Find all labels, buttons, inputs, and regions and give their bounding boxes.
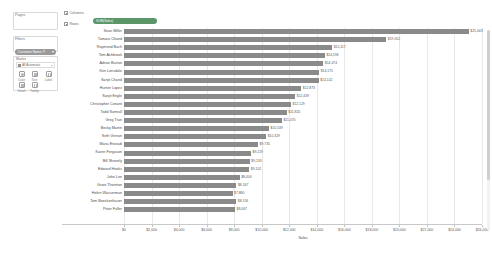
marks-button-tooltip-label: Tooltip bbox=[29, 89, 40, 93]
marks-button-size[interactable]: Size bbox=[29, 71, 40, 82]
bar-row[interactable]: Peter Fuller$8,067 bbox=[124, 206, 482, 214]
bar-row[interactable]: Ken Lonsdale$14,175 bbox=[124, 68, 482, 76]
bar-row[interactable]: Becky Martin$10,539 bbox=[124, 125, 482, 133]
x-axis-tick bbox=[482, 225, 483, 227]
bar[interactable] bbox=[124, 102, 291, 107]
detail-icon bbox=[19, 82, 25, 88]
marks-type-dropdown[interactable]: All Automatic bbox=[16, 62, 55, 68]
x-axis-tick-label: $20,000 bbox=[393, 228, 406, 233]
chevron-down-icon[interactable] bbox=[51, 65, 53, 66]
bar[interactable] bbox=[124, 191, 233, 196]
bar[interactable] bbox=[124, 134, 266, 139]
bar-row[interactable]: Tom Ashbrook$14,596 bbox=[124, 52, 482, 60]
tooltip-icon bbox=[32, 82, 38, 88]
bar[interactable] bbox=[124, 70, 319, 75]
bar[interactable] bbox=[124, 199, 236, 204]
bar-row-label: Christopher Conant bbox=[90, 101, 122, 108]
bar-row[interactable]: Raymond Buch$15,117 bbox=[124, 44, 482, 52]
x-axis-tick bbox=[399, 225, 400, 227]
x-axis-tick bbox=[372, 225, 373, 227]
bar[interactable] bbox=[124, 151, 251, 156]
bar-row[interactable]: John Lee$8,400 bbox=[124, 174, 482, 182]
bar-row-label: Sanjit Chand bbox=[101, 77, 122, 84]
bar-row[interactable]: Greg Tran$11,470 bbox=[124, 117, 482, 125]
marks-type-value: All Automatic bbox=[22, 63, 40, 68]
x-axis-line bbox=[62, 224, 482, 225]
bar-row[interactable]: Sean Miller$25,043 bbox=[124, 28, 482, 36]
bar-value-label: $19,052 bbox=[388, 36, 400, 43]
x-axis-tick-label: $6,000 bbox=[201, 228, 212, 233]
chevron-down-icon[interactable] bbox=[52, 51, 54, 53]
bar[interactable] bbox=[124, 175, 240, 180]
bar-row-label: Helen Wasserman bbox=[92, 190, 122, 197]
bar-row-label: Peter Fuller bbox=[103, 206, 122, 213]
bar-row[interactable]: Sanjit Chand$14,142 bbox=[124, 77, 482, 85]
bar-row[interactable]: Bill Shonely$9,133 bbox=[124, 158, 482, 166]
bar-row[interactable]: Seth Vernon$10,329 bbox=[124, 133, 482, 141]
bar[interactable] bbox=[124, 207, 235, 212]
bar[interactable] bbox=[124, 78, 319, 83]
bar-row[interactable]: Hunter Lopez$12,873 bbox=[124, 85, 482, 93]
bar[interactable] bbox=[124, 53, 325, 58]
bar-row[interactable]: Edward Hooks$9,102 bbox=[124, 166, 482, 174]
x-axis-tick bbox=[344, 225, 345, 227]
filter-pill-customer-name[interactable]: Customer Name: P bbox=[15, 49, 56, 55]
marks-button-detail[interactable]: Detail bbox=[16, 82, 27, 93]
bar[interactable] bbox=[124, 45, 332, 50]
bar-row-label: John Lee bbox=[107, 174, 122, 181]
bar[interactable] bbox=[124, 126, 269, 131]
bar[interactable] bbox=[124, 110, 287, 115]
x-axis-tick-label: $2,000 bbox=[146, 228, 157, 233]
tableau-worksheet-window: Pages Filters Customer Name: P Marks All… bbox=[0, 0, 492, 258]
x-axis-tick bbox=[262, 225, 263, 227]
bar-row-label: Adrian Barton bbox=[99, 60, 122, 67]
bar-value-label: $14,142 bbox=[320, 77, 332, 84]
bar[interactable] bbox=[124, 61, 323, 66]
bar[interactable] bbox=[124, 86, 301, 91]
marks-button-tooltip[interactable]: Tooltip bbox=[29, 82, 40, 93]
bar-row[interactable]: Karen Ferguson$9,229 bbox=[124, 149, 482, 157]
x-axis-tick-label: $16,000 bbox=[338, 228, 351, 233]
bar-row[interactable]: Maria Etezadi$9,735 bbox=[124, 141, 482, 149]
bar-value-label: $8,400 bbox=[241, 174, 251, 181]
bar[interactable] bbox=[124, 29, 469, 34]
bar[interactable] bbox=[124, 159, 250, 164]
bar[interactable] bbox=[124, 37, 386, 42]
columns-icon bbox=[64, 11, 68, 15]
bar-row-label: Tom Boeckenhauer bbox=[90, 198, 122, 205]
bar-value-label: $9,229 bbox=[253, 149, 263, 156]
vertical-scrollbar-thumb[interactable] bbox=[487, 30, 490, 180]
bar[interactable] bbox=[124, 94, 295, 99]
bar[interactable] bbox=[124, 118, 282, 123]
bar-row[interactable]: Adrian Barton$14,474 bbox=[124, 60, 482, 68]
bar[interactable] bbox=[124, 167, 249, 172]
mark-type-icon bbox=[18, 64, 21, 67]
bar-value-label: $9,133 bbox=[251, 158, 261, 165]
bar-row-label: Karen Ferguson bbox=[96, 149, 122, 156]
bar-row[interactable]: Tamara Chand$19,052 bbox=[124, 36, 482, 44]
x-axis-tick bbox=[179, 225, 180, 227]
vertical-scrollbar[interactable] bbox=[487, 30, 490, 230]
columns-shelf[interactable]: Columns SUM(Sales) bbox=[64, 9, 294, 17]
bar-value-label: $10,329 bbox=[268, 133, 280, 140]
marks-button-label[interactable]: Label bbox=[43, 71, 54, 82]
bar-row[interactable]: Christopher Conant$12,129 bbox=[124, 101, 482, 109]
x-axis-tick-label: $10,000 bbox=[255, 228, 268, 233]
bar-row[interactable]: Grant Thornton$8,167 bbox=[124, 182, 482, 190]
bar-row[interactable]: Helen Wasserman$7,880 bbox=[124, 190, 482, 198]
x-axis-tick-label: $22,000 bbox=[421, 228, 434, 233]
marks-button-label-label: Label bbox=[43, 78, 54, 82]
marks-button-size-label: Size bbox=[29, 78, 40, 82]
rows-shelf[interactable]: Rows Customer Name bbox=[64, 20, 294, 28]
bar[interactable] bbox=[124, 142, 258, 147]
bar-value-label: $11,470 bbox=[283, 117, 295, 124]
bar-row-label: Seth Vernon bbox=[102, 133, 122, 140]
bar-row[interactable]: Sanjit Engle$12,439 bbox=[124, 93, 482, 101]
bar-value-label: $8,156 bbox=[238, 198, 248, 205]
rows-icon bbox=[64, 22, 68, 26]
bar[interactable] bbox=[124, 183, 236, 188]
x-axis-tick bbox=[124, 225, 125, 227]
marks-button-color[interactable]: Color bbox=[16, 71, 27, 82]
bar-row[interactable]: Todd Sumrall$11,820 bbox=[124, 109, 482, 117]
bar-row[interactable]: Tom Boeckenhauer$8,156 bbox=[124, 198, 482, 206]
